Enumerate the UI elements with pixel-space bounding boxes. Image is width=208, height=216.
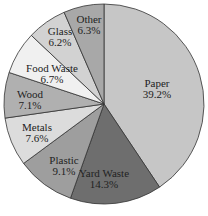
slice-percent: 39.2%	[143, 88, 171, 100]
slice-percent: 6.2%	[49, 36, 72, 48]
slice-percent: 6.7%	[41, 73, 64, 85]
slice-percent: 7.1%	[19, 99, 42, 111]
slice-percent: 14.3%	[90, 178, 118, 190]
slice-percent: 9.1%	[53, 165, 76, 177]
pie-chart: Paper39.2%Yard Waste14.3%Plastic9.1%Meta…	[0, 0, 208, 216]
slice-percent: 6.3%	[78, 24, 101, 36]
slice-percent: 7.6%	[26, 132, 49, 144]
